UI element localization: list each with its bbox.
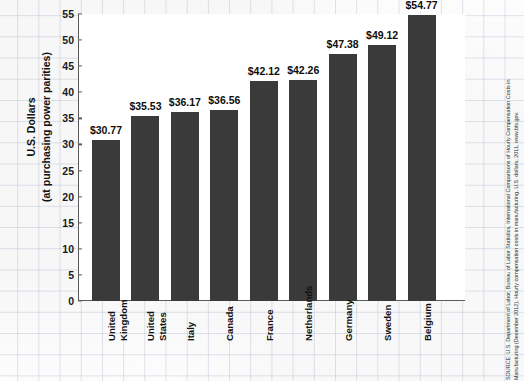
x-axis-category-label: Germany	[343, 267, 355, 341]
y-axis-tick-mark	[78, 222, 82, 223]
bar-value-label: $35.53	[128, 100, 162, 112]
category-label-word: Italy	[185, 267, 197, 341]
x-axis-category-label: UnitedKingdom	[106, 267, 129, 341]
x-axis-category-label: Netherlands	[303, 267, 315, 341]
y-axis-tick-mark	[78, 39, 82, 40]
y-axis-tick-label: 10	[62, 243, 74, 255]
y-axis-tick-mark	[78, 196, 82, 197]
bar-value-label: $36.56	[207, 94, 241, 106]
y-axis-tick-label: 15	[62, 217, 74, 229]
category-label-word: Germany	[343, 267, 355, 341]
bar	[408, 15, 436, 301]
y-axis-tick-label: 30	[62, 138, 74, 150]
category-label-word: United	[106, 267, 118, 341]
category-label-word: States	[157, 267, 169, 341]
category-label-word: United	[145, 267, 157, 341]
y-axis-tick-label: 45	[62, 60, 74, 72]
category-label-word: France	[264, 267, 276, 341]
category-label-word: Sweden	[382, 267, 394, 341]
bars-layer: $30.77$35.53$36.17$36.56$42.12$42.26$47.…	[78, 14, 465, 301]
y-axis-tick-mark	[78, 274, 82, 275]
source-note-line2: Manufacturing (December 2012), Hourly co…	[512, 112, 520, 380]
y-axis-title-line1: U.S. Dollars	[25, 98, 37, 157]
bar-value-label: $30.77	[89, 124, 123, 136]
y-axis-tick-label: 50	[62, 34, 74, 46]
category-label-word: Canada	[224, 267, 236, 341]
x-axis-category-labels: UnitedKingdomUnitedStatesItalyCanadaFran…	[78, 304, 465, 381]
y-axis-tick-label: 25	[62, 165, 74, 177]
y-axis-tick-label: 0	[68, 295, 74, 307]
bar	[368, 45, 396, 301]
x-axis-category-label: UnitedStates	[145, 267, 168, 341]
y-axis-tick-label: 20	[62, 191, 74, 203]
x-axis-category-label: France	[264, 267, 276, 341]
y-axis-tick-mark	[78, 92, 82, 93]
y-axis-tick-mark	[78, 118, 82, 119]
bar-value-label: $36.17	[168, 96, 202, 108]
y-axis-tick-label: 55	[62, 8, 74, 20]
bar-value-label: $42.26	[286, 64, 320, 76]
category-label-word: Belgium	[422, 267, 434, 341]
category-label-word: Kingdom	[118, 267, 130, 341]
y-axis-tick-mark	[78, 66, 82, 67]
x-axis-category-label: Italy	[185, 267, 197, 341]
source-note: SOURCE: U.S. Department of Labor, Bureau…	[500, 8, 522, 378]
bar	[329, 54, 357, 301]
x-axis-category-label: Canada	[224, 267, 236, 341]
bar-value-label: $42.12	[247, 65, 281, 77]
y-axis-tick-mark	[78, 144, 82, 145]
y-axis-tick-mark	[78, 170, 82, 171]
source-note-line1: SOURCE: U.S. Department of Labor, Bureau…	[504, 79, 512, 380]
y-axis-tick-label: 35	[62, 112, 74, 124]
y-axis-tick-label: 5	[68, 269, 74, 281]
y-axis-tick-label: 40	[62, 86, 74, 98]
chart-page: U.S. Dollars (at purchasing power pariti…	[0, 0, 524, 381]
category-label-word: Netherlands	[303, 267, 315, 341]
bar-value-label: $47.38	[326, 38, 360, 50]
x-axis-category-label: Belgium	[422, 267, 434, 341]
y-axis-title: U.S. Dollars (at purchasing power pariti…	[24, 42, 54, 212]
bar-value-label: $49.12	[365, 29, 399, 41]
x-axis-category-label: Sweden	[382, 267, 394, 341]
bar-value-label: $54.77	[404, 0, 438, 11]
y-axis-tick-mark	[78, 13, 82, 14]
y-axis-tick-mark	[78, 248, 82, 249]
y-axis-tick-mark	[78, 300, 82, 301]
y-axis-ticks: 0510152025303540455055	[52, 0, 74, 381]
